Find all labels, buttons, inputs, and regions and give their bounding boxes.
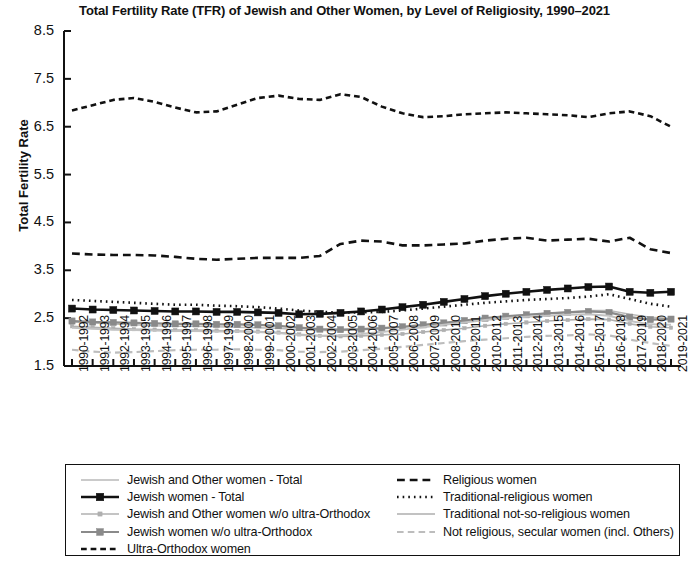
- legend-swatch-icon: [80, 542, 120, 556]
- series-marker: [626, 288, 633, 295]
- series-marker: [504, 322, 507, 325]
- x-tick-label: 2002-2004: [325, 315, 339, 372]
- series-marker: [421, 330, 424, 333]
- x-tick-label: 2011-2013: [511, 316, 525, 372]
- x-tick-label: 2006-2008: [407, 315, 421, 372]
- legend-item[interactable]: Ultra-Orthodox women: [80, 541, 390, 558]
- series-marker: [174, 328, 177, 331]
- x-tick-label: 2010-2012: [490, 315, 504, 372]
- legend-swatch-icon: [396, 507, 436, 521]
- series-marker: [585, 308, 591, 314]
- x-tick-label: 1992-1994: [118, 315, 132, 372]
- legend-swatch-icon: [80, 490, 120, 504]
- legend-item[interactable]: Traditional-religious women: [396, 488, 681, 505]
- series-marker: [70, 325, 73, 328]
- legend-item-label: Jewish and Other women - Total: [127, 473, 302, 487]
- x-tick-label: 2005-2007: [387, 315, 401, 372]
- series-line: [72, 287, 671, 315]
- legend-swatch-icon: [396, 490, 436, 504]
- legend-item[interactable]: Jewish and Other women - Total: [80, 471, 390, 488]
- series-marker: [256, 330, 259, 333]
- series-marker: [606, 283, 613, 290]
- y-tick-label: 3.5: [20, 262, 54, 277]
- chart-container: Total Fertility Rate (TFR) of Jewish and…: [0, 0, 689, 563]
- y-tick-label: 2.5: [20, 310, 54, 325]
- legend-item-label: Ultra-Orthodox women: [127, 542, 251, 556]
- legend-item[interactable]: Religious women: [396, 471, 681, 488]
- series-marker: [463, 326, 466, 329]
- series-marker: [69, 318, 75, 324]
- series-marker: [339, 335, 342, 338]
- y-axis-tick-labels: 8.57.56.55.54.53.52.51.5: [12, 0, 54, 380]
- series-marker: [151, 307, 158, 314]
- series-marker: [523, 288, 530, 295]
- legend-item-label: Jewish and Other women w/o ultra-Orthodo…: [127, 507, 370, 521]
- legend-line-icon: [80, 473, 120, 487]
- x-tick-label: 2007-2009: [428, 315, 442, 372]
- x-tick-label: 2019-2021: [676, 315, 689, 372]
- legend-item[interactable]: Jewish women - Total: [80, 488, 390, 505]
- series-marker: [172, 308, 179, 315]
- legend-item[interactable]: Jewish and Other women w/o ultra-Orthodo…: [80, 506, 390, 523]
- x-tick-label: 2012-2014: [531, 315, 545, 372]
- series-marker: [647, 289, 654, 296]
- series-marker: [607, 318, 610, 321]
- series-marker: [502, 290, 509, 297]
- legend-swatch-icon: [396, 525, 436, 539]
- series-marker: [442, 328, 445, 331]
- series-marker: [587, 317, 590, 320]
- legend-line-icon: [80, 490, 120, 504]
- x-tick-label: 1997-1999: [222, 315, 236, 372]
- x-tick-label: 2008-2010: [449, 315, 463, 372]
- x-tick-label: 2003-2005: [346, 315, 360, 372]
- legend-item-label: Traditional-religious women: [443, 490, 592, 504]
- series-marker: [668, 288, 675, 295]
- legend-line-icon: [80, 542, 120, 556]
- legend-item-label: Religious women: [443, 473, 537, 487]
- series-marker: [399, 304, 406, 311]
- x-tick-label: 2016-2018: [614, 315, 628, 372]
- series-marker: [153, 328, 156, 331]
- series-marker: [91, 326, 94, 329]
- series-marker: [461, 296, 468, 303]
- series-line: [72, 94, 671, 127]
- legend-swatch-icon: [80, 507, 120, 521]
- legend-swatch-icon: [80, 525, 120, 539]
- x-tick-label: 1993-1995: [139, 315, 153, 372]
- x-tick-label: 1994-1996: [160, 315, 174, 372]
- legend-swatch-icon: [80, 473, 120, 487]
- series-marker: [215, 329, 218, 332]
- series-marker: [544, 286, 551, 293]
- legend-item-label: Traditional not-so-religious women: [443, 507, 630, 521]
- series-marker: [132, 327, 135, 330]
- y-tick-label: 5.5: [20, 167, 54, 182]
- legend-item[interactable]: Not religious, secular women (incl. Othe…: [396, 523, 681, 540]
- series-marker: [585, 284, 592, 291]
- series-marker: [298, 333, 301, 336]
- legend-line-icon: [396, 473, 436, 487]
- series-marker: [380, 333, 383, 336]
- y-tick-label: 8.5: [20, 23, 54, 38]
- x-tick-label: 1990-1992: [77, 315, 91, 372]
- x-tick-label: 2000-2002: [284, 315, 298, 372]
- x-tick-label: 2014-2016: [573, 315, 587, 372]
- series-marker: [545, 319, 548, 322]
- series-marker: [628, 322, 631, 325]
- x-tick-label: 1995-1997: [180, 315, 194, 372]
- series-marker: [130, 307, 137, 314]
- series-line: [72, 294, 671, 312]
- x-tick-label: 1991-1993: [98, 315, 112, 372]
- legend-line-icon: [80, 525, 120, 539]
- series-marker: [566, 318, 569, 321]
- series-marker: [358, 308, 365, 315]
- series-marker: [378, 306, 385, 313]
- series-marker: [236, 329, 239, 332]
- legend-item[interactable]: Traditional not-so-religious women: [396, 506, 681, 523]
- series-marker: [525, 321, 528, 324]
- legend-item[interactable]: Jewish women w/o ultra-Orthodox: [80, 523, 390, 540]
- series-marker: [89, 306, 96, 313]
- legend-item-label: Jewish women w/o ultra-Orthodox: [127, 525, 312, 539]
- series-marker: [669, 326, 672, 329]
- legend-swatch-icon: [396, 473, 436, 487]
- x-tick-label: 1998-2000: [242, 315, 256, 372]
